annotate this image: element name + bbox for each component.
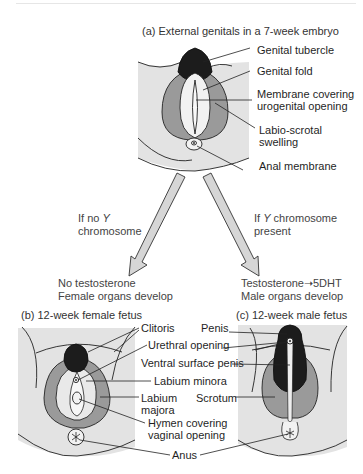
label-penis: Penis [201,322,229,335]
right-condition-y: Y [263,212,270,224]
label-membrane-line2: urogenital opening [257,100,348,113]
label-genital-fold: Genital fold [257,65,313,78]
right-outcome-line1: Testosterone➝5DHT [241,277,342,290]
arrow-to-male [203,173,259,276]
label-urethral-opening: Urethral opening [148,339,229,352]
label-labium-minora: Labium minora [154,375,227,388]
label-anal-membrane: Anal membrane [259,160,337,173]
panel-b-title: (b) 12-week female fetus [21,309,142,322]
right-condition-suffix: chromosome [271,212,338,224]
label-labio-scrotal-line2: swelling [259,136,298,149]
label-ventral-surface-penis: Ventral surface penis [141,357,244,370]
left-outcome-line1: No testosterone [58,277,136,290]
right-condition-line1: If Y chromosome [254,212,337,225]
right-outcome-line2: Male organs develop [241,290,343,303]
left-outcome-line2: Female organs develop [58,290,173,303]
left-condition-y: Y [102,212,109,224]
label-scrotum: Scrotum [196,392,237,405]
left-condition-prefix: If no [78,212,102,224]
label-hymen-line2: vaginal opening [148,429,225,442]
clitoris-shape [64,344,88,372]
label-labium-majora-line2: majora [141,404,175,417]
label-anus: Anus [172,449,197,462]
right-condition-line2: present [254,225,291,238]
left-condition-line1: If no Y [78,212,110,225]
left-condition-line2: chromosome [78,225,142,238]
label-clitoris: Clitoris [141,322,175,335]
label-genital-tubercle: Genital tubercle [257,44,334,57]
panel-c-title: (c) 12-week male fetus [236,309,347,322]
embryo-7-week-illustration [138,48,255,171]
panel-a-title: (a) External genitals in a 7-week embryo [142,25,339,38]
right-condition-prefix: If [254,212,263,224]
